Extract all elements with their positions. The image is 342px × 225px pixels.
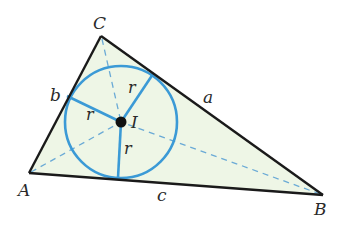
incenter-point	[116, 117, 127, 128]
radius-label-upper: r	[128, 78, 137, 97]
vertex-label-c: C	[93, 13, 106, 33]
side-label-c: c	[157, 185, 167, 205]
radius-label-left: r	[86, 105, 95, 124]
vertex-label-a: A	[16, 180, 30, 200]
side-label-a: a	[203, 87, 213, 107]
vertex-label-b: B	[313, 199, 327, 219]
incenter-label: I	[130, 112, 138, 132]
radius-label-lower: r	[124, 139, 133, 158]
side-label-b: b	[50, 85, 61, 105]
incircle-diagram: C A B a b c I r r r	[0, 0, 342, 225]
